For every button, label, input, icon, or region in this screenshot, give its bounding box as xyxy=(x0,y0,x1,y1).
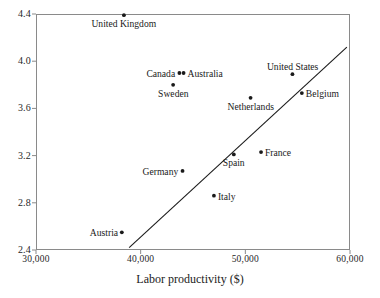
x-axis-tick-label: 40,000 xyxy=(116,254,166,264)
data-point-label: Sweden xyxy=(158,88,188,99)
data-point-label: United States xyxy=(267,61,318,72)
x-axis-tick-label: 50,000 xyxy=(220,254,270,264)
y-axis-tick-label: 2.8 xyxy=(0,198,31,208)
data-point-label: France xyxy=(265,147,291,158)
scatter-chart: 4.44.03.63.22.82.4 30,00040,00050,00060,… xyxy=(0,0,380,298)
x-axis-tick-label: 60,000 xyxy=(325,254,375,264)
data-point-label: Austria xyxy=(90,227,118,238)
data-point-label: United Kingdom xyxy=(91,18,156,29)
x-axis-title: Labor productivity ($) xyxy=(0,272,380,286)
data-point-label: Germany xyxy=(143,166,179,177)
y-axis-tick-label: 3.2 xyxy=(0,151,31,161)
y-axis-tick-label: 4.0 xyxy=(0,56,31,66)
plot-area xyxy=(36,14,350,250)
data-point-label: Belgium xyxy=(306,88,339,99)
y-axis-tick-label: 4.4 xyxy=(0,9,31,19)
x-axis-tick-label: 30,000 xyxy=(11,254,61,264)
data-point-label: Australia xyxy=(188,68,223,79)
data-point-label: Italy xyxy=(218,191,236,202)
y-axis-tick-label: 3.6 xyxy=(0,103,31,113)
data-point-label: Spain xyxy=(223,157,245,168)
data-point-label: Netherlands xyxy=(228,101,274,112)
data-point-label: Canada xyxy=(146,68,175,79)
